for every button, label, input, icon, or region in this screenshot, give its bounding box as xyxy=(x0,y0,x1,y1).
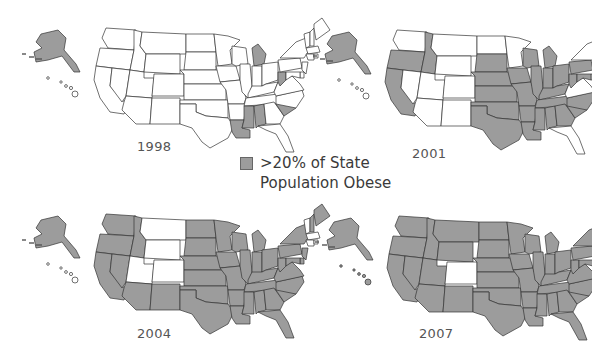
state-HI xyxy=(47,263,50,266)
state-FL xyxy=(258,124,294,152)
state-NY xyxy=(573,226,592,246)
state-AK xyxy=(327,218,373,260)
state-PA xyxy=(569,60,592,74)
state-AZ xyxy=(413,98,443,126)
state-UT xyxy=(419,258,447,286)
state-HI xyxy=(340,265,343,268)
state-AZ xyxy=(122,282,152,310)
state-WY xyxy=(144,240,180,260)
state-CO xyxy=(445,262,477,284)
state-HI xyxy=(69,86,72,89)
state-HI xyxy=(65,85,68,88)
state-MI xyxy=(252,230,266,252)
state-NM xyxy=(443,286,473,312)
state-FL xyxy=(549,126,585,154)
state-HI xyxy=(338,79,341,82)
year-label-2001: 2001 xyxy=(412,146,446,161)
state-CO xyxy=(152,74,184,96)
state-AR xyxy=(228,104,246,120)
state-ND xyxy=(477,36,507,54)
state-NM xyxy=(150,284,180,310)
state-AR xyxy=(519,106,537,122)
state-MT xyxy=(140,32,186,54)
state-FL xyxy=(551,312,587,340)
state-HI xyxy=(351,83,353,85)
state-HI xyxy=(365,279,371,285)
state-SD xyxy=(475,54,507,72)
state-WI xyxy=(523,48,539,68)
state-MS xyxy=(242,106,254,128)
state-WY xyxy=(144,54,180,74)
state-ND xyxy=(186,220,216,238)
state-PA xyxy=(571,246,592,260)
state-MI xyxy=(545,232,559,254)
state-AK xyxy=(325,32,371,74)
map-2001 xyxy=(292,0,592,170)
state-HI xyxy=(72,277,78,283)
state-MS xyxy=(535,294,547,316)
state-HI xyxy=(353,269,355,271)
year-label-2007: 2007 xyxy=(419,326,453,341)
legend-swatch xyxy=(240,157,253,170)
state-HI xyxy=(47,77,50,80)
state-HI xyxy=(356,87,359,90)
us-map-svg xyxy=(292,0,592,170)
state-HI xyxy=(358,273,361,276)
state-MT xyxy=(433,220,479,242)
state-WA xyxy=(102,28,136,50)
state-CO xyxy=(152,260,184,282)
state-MS xyxy=(242,292,254,314)
state-NM xyxy=(150,98,180,124)
state-MT xyxy=(140,218,186,240)
state-NY xyxy=(571,40,592,60)
state-AK xyxy=(34,30,80,72)
state-WA xyxy=(102,214,136,236)
state-MI xyxy=(252,44,266,66)
state-HI xyxy=(60,81,62,83)
state-IA xyxy=(507,68,531,84)
state-MT xyxy=(431,34,477,56)
state-NM xyxy=(441,100,471,126)
state-HI xyxy=(363,93,369,99)
state-HI xyxy=(69,272,72,275)
state-HI xyxy=(72,91,78,97)
state-FL xyxy=(258,310,294,338)
state-KS xyxy=(477,272,519,288)
state-ND xyxy=(479,222,509,240)
state-WA xyxy=(393,30,427,52)
state-UT xyxy=(417,72,445,100)
state-SD xyxy=(477,240,509,258)
state-MS xyxy=(533,108,545,130)
legend-label-line1: >20% of State xyxy=(260,153,370,173)
year-label-2004: 2004 xyxy=(137,326,171,341)
year-label-1998: 1998 xyxy=(137,139,171,154)
us-map-svg xyxy=(292,180,592,350)
state-AK xyxy=(34,216,80,258)
us-map-svg xyxy=(0,180,300,350)
state-AZ xyxy=(415,284,445,312)
state-HI xyxy=(360,88,363,91)
state-KS xyxy=(475,86,517,102)
state-WA xyxy=(395,216,429,238)
state-AZ xyxy=(122,96,152,124)
state-UT xyxy=(126,70,154,98)
map-2004 xyxy=(0,180,300,350)
state-WY xyxy=(435,56,471,76)
state-HI xyxy=(362,274,365,277)
state-CO xyxy=(443,76,475,98)
map-2007 xyxy=(292,180,592,350)
state-KS xyxy=(184,270,226,286)
state-KS xyxy=(184,84,226,100)
state-HI xyxy=(60,267,62,269)
state-IA xyxy=(216,252,240,268)
state-WI xyxy=(232,232,248,252)
state-IA xyxy=(509,254,533,270)
state-HI xyxy=(65,271,68,274)
state-AR xyxy=(521,292,539,308)
state-ND xyxy=(186,34,216,52)
state-AR xyxy=(228,290,246,306)
state-MI xyxy=(543,46,557,68)
state-UT xyxy=(126,256,154,284)
state-WY xyxy=(437,242,473,262)
legend-label-line2: Population Obese xyxy=(260,173,391,193)
